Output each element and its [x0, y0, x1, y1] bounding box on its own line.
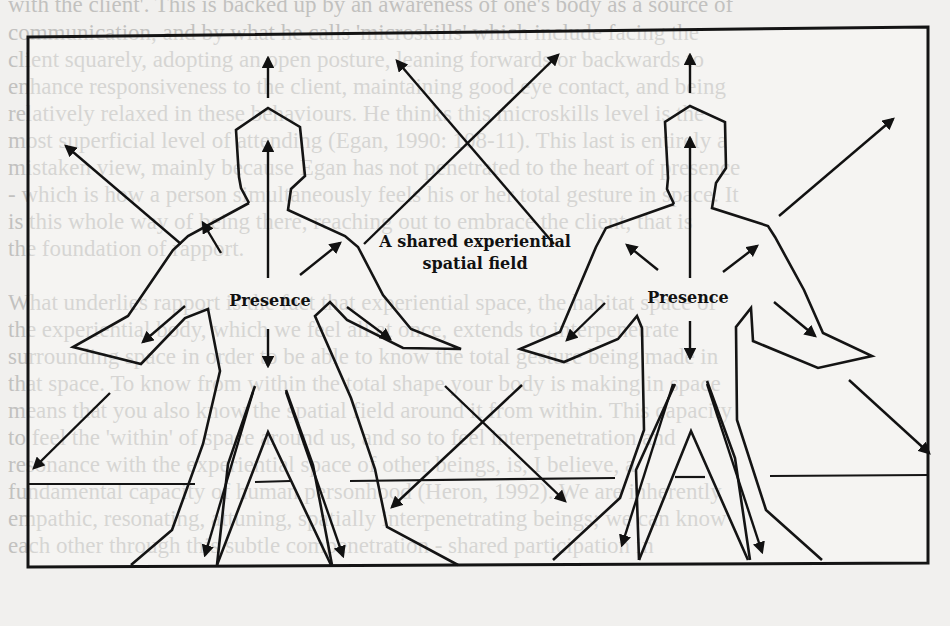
shared-field-label-line2: spatial field [365, 253, 585, 275]
right-presence-label: Presence [623, 287, 753, 309]
shared-field-label: A shared experiential spatial field [365, 231, 585, 275]
presence-diagram [0, 0, 950, 626]
shared-field-label-line1: A shared experiential [365, 231, 585, 253]
left-presence-label: Presence [205, 290, 335, 312]
frame [28, 27, 928, 567]
